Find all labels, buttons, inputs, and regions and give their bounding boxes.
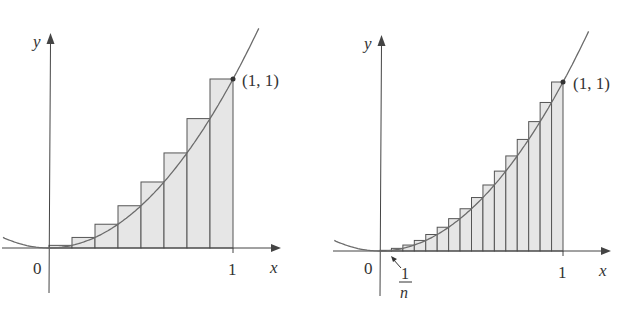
riemann-rectangle <box>141 182 164 248</box>
left-point-label: (1, 1) <box>242 71 279 90</box>
y-axis-arrow-icon <box>378 35 386 46</box>
right-point-label: (1, 1) <box>573 74 610 93</box>
y-axis <box>380 43 382 296</box>
riemann-rectangle <box>187 119 210 248</box>
left-plot <box>2 28 281 293</box>
fraction-denominator: n <box>400 284 408 301</box>
right-plot <box>333 31 611 296</box>
riemann-rectangle <box>517 139 528 251</box>
pointer-arrow-head-icon <box>391 256 397 262</box>
riemann-rectangle <box>118 206 141 248</box>
right-origin-label: 0 <box>364 259 373 278</box>
point-1-1 <box>561 80 566 85</box>
left-one-label: 1 <box>228 260 237 279</box>
left-origin-label: 0 <box>33 259 42 278</box>
right-one-label: 1 <box>558 263 567 282</box>
left-y-axis-label: y <box>31 32 41 51</box>
fraction-numerator: 1 <box>401 265 409 282</box>
riemann-rectangle <box>210 79 233 248</box>
riemann-rectangle <box>540 102 551 251</box>
x-axis-arrow-icon <box>271 244 281 252</box>
x-axis-arrow-icon <box>601 247 611 255</box>
riemann-rectangle <box>414 240 425 251</box>
riemann-rectangle <box>460 209 471 251</box>
right-y-axis-label: y <box>362 34 372 53</box>
figure: y x 0 1 (1, 1) y x 0 1 (1, 1) 1 n <box>0 0 640 319</box>
right-x-axis-label: x <box>598 261 607 280</box>
riemann-rectangle <box>529 122 540 251</box>
riemann-rectangle <box>552 82 563 251</box>
riemann-rectangle <box>472 198 483 251</box>
left-x-axis-label: x <box>269 258 278 277</box>
point-1-1 <box>231 77 236 82</box>
riemann-rectangle <box>506 156 517 251</box>
y-axis <box>49 41 51 293</box>
y-axis-arrow-icon <box>47 33 55 44</box>
